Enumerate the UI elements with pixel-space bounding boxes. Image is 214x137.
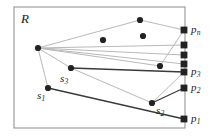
edge-top-pn	[140, 20, 184, 30]
region-label: R	[21, 12, 29, 25]
figure-canvas	[0, 0, 214, 137]
label-s3: s3	[60, 73, 68, 86]
edge-s3-s2	[71, 68, 152, 103]
boundary-point-pu2	[181, 52, 188, 59]
site-s3	[68, 65, 74, 71]
label-s2: s2	[156, 105, 164, 118]
label-s1: s1	[37, 90, 45, 103]
node-mid-left	[100, 37, 106, 43]
boundary-point-pu1	[181, 61, 188, 68]
node-left-vertex	[35, 45, 41, 51]
geometry-figure: R s1 s2 s3 p1 p2 p3 pn	[0, 0, 214, 137]
edge-leftvertex-s1	[38, 48, 48, 88]
boundary-point-pu3	[181, 42, 188, 49]
interior-node-group	[35, 17, 163, 69]
boundary-point-group	[181, 27, 188, 123]
node-mid-right	[140, 33, 146, 39]
boundary-point-p1	[181, 116, 188, 123]
site-s2	[149, 100, 155, 106]
edge-lowerright-pn	[160, 30, 184, 66]
edge-leftvertex-pu3	[38, 45, 184, 48]
edge-leftvertex-top	[38, 20, 140, 48]
node-top	[137, 17, 143, 23]
node-lower-right	[157, 63, 163, 69]
edge-s2-p3	[152, 72, 184, 103]
label-p3: p3	[191, 66, 201, 79]
label-p1: p1	[191, 113, 201, 126]
edge-s2-p2	[152, 88, 184, 103]
label-p2: p2	[191, 82, 201, 95]
label-pn: pn	[191, 24, 201, 37]
site-s1	[45, 85, 51, 91]
boundary-point-p2	[181, 85, 188, 92]
boundary-point-p3	[181, 69, 188, 76]
edge-s3-p3	[71, 68, 184, 72]
boundary-point-pn	[181, 27, 188, 34]
